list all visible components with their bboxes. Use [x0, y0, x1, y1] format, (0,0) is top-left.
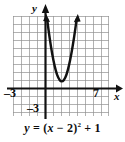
- x-axis-label: x: [113, 90, 120, 102]
- coordinate-plane-svg: y x –3 7 –3: [0, 0, 125, 122]
- equation-minus: −: [57, 121, 64, 135]
- equation-plus: +: [84, 121, 91, 135]
- x-tick-label-seven: 7: [93, 86, 99, 100]
- parabola-left-arrowhead: [43, 14, 50, 22]
- equation-lhs: y: [24, 121, 30, 135]
- equation-exponent: 2: [77, 121, 81, 129]
- equation-variable: x: [47, 121, 53, 135]
- x-axis: [7, 85, 123, 93]
- equation-caption: y = (x − 2)2 + 1: [0, 121, 125, 136]
- equation-equals: =: [33, 121, 40, 135]
- y-axis-arrowhead: [42, 4, 49, 13]
- x-tick-label-negative-three: –3: [3, 86, 16, 100]
- equation-k-value: 1: [95, 121, 101, 135]
- y-tick-label-negative-three: –3: [26, 101, 39, 115]
- graph-plot-area: y x –3 7 –3: [0, 0, 125, 122]
- parabola-figure: y x –3 7 –3 y = (x − 2)2 + 1: [0, 0, 125, 142]
- parabola-right-arrowhead: [74, 14, 81, 22]
- y-axis-label: y: [30, 2, 37, 14]
